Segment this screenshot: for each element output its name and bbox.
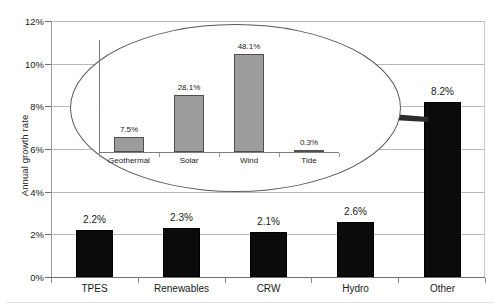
inset-bar-label-wind: 48.1%	[238, 42, 261, 51]
x-tick-mark-4	[398, 278, 399, 283]
bar-other	[424, 102, 461, 277]
y-axis-ticks: 12% 10% 8% 6% 4% 2% 0%	[10, 0, 44, 307]
x-tick-mark-1	[138, 278, 139, 283]
inset-bar-geothermal	[114, 137, 144, 152]
bar-label-crw: 2.1%	[257, 216, 280, 227]
y-tick-mark-10	[45, 64, 51, 65]
bar-hydro	[337, 222, 374, 277]
y-tick-mark-2	[45, 234, 51, 235]
y-tick-label-0: 0%	[14, 272, 44, 283]
y-tick-mark-4	[45, 192, 51, 193]
category-label-tpes: TPES	[81, 283, 107, 294]
inset-category-label-solar: Solar	[180, 156, 199, 165]
x-tick-mark-0	[51, 278, 52, 283]
bar-tpes	[76, 230, 113, 277]
bar-label-other: 8.2%	[431, 86, 454, 97]
bar-label-hydro: 2.6%	[344, 206, 367, 217]
y-tick-label-10: 10%	[14, 58, 44, 69]
inset-x-tick-mark-0	[99, 153, 100, 157]
inset-bar-wind	[234, 54, 264, 152]
category-label-hydro: Hydro	[342, 283, 369, 294]
y-tick-mark-8	[45, 106, 51, 107]
y-tick-label-2: 2%	[14, 229, 44, 240]
chart-container: Annual growth rate 12% 10% 8% 6% 4% 2% 0…	[0, 0, 500, 307]
inset-x-tick-mark-2	[219, 153, 220, 157]
x-tick-mark-5	[485, 278, 486, 283]
inset-bar-label-solar: 28.1%	[178, 83, 201, 92]
inset-bar-tide	[294, 150, 324, 153]
y-tick-label-8: 8%	[14, 101, 44, 112]
inset-category-label-wind: Wind	[240, 156, 258, 165]
x-tick-mark-3	[311, 278, 312, 283]
inset-x-tick-mark-3	[279, 153, 280, 157]
inset-bar-solar	[174, 95, 204, 152]
x-tick-mark-2	[225, 278, 226, 283]
inset-x-tick-mark-1	[159, 153, 160, 157]
bar-crw	[250, 232, 287, 277]
category-label-crw: CRW	[257, 283, 281, 294]
y-tick-label-12: 12%	[14, 16, 44, 27]
y-tick-mark-6	[45, 149, 51, 150]
inset-x-tick-mark-4	[339, 153, 340, 157]
inset-category-label-geothermal: Geothermal	[108, 156, 150, 165]
bar-label-renewables: 2.3%	[170, 212, 193, 223]
bar-label-tpes: 2.2%	[83, 214, 106, 225]
inset-category-label-tide: Tide	[301, 156, 316, 165]
x-axis-line	[51, 277, 485, 278]
y-tick-label-4: 4%	[14, 186, 44, 197]
category-label-other: Other	[430, 283, 455, 294]
category-label-renewables: Renewables	[154, 283, 209, 294]
y-tick-mark-12	[45, 21, 51, 22]
bottom-divider	[6, 302, 494, 303]
inset-chart: 7.5% 28.1% 48.1% 0.3% Geothermal Solar W…	[99, 40, 339, 164]
inset-bar-label-tide: 0.3%	[300, 138, 318, 147]
inset-bar-label-geothermal: 7.5%	[120, 125, 138, 134]
y-tick-label-6: 6%	[14, 144, 44, 155]
bar-renewables	[163, 228, 200, 277]
